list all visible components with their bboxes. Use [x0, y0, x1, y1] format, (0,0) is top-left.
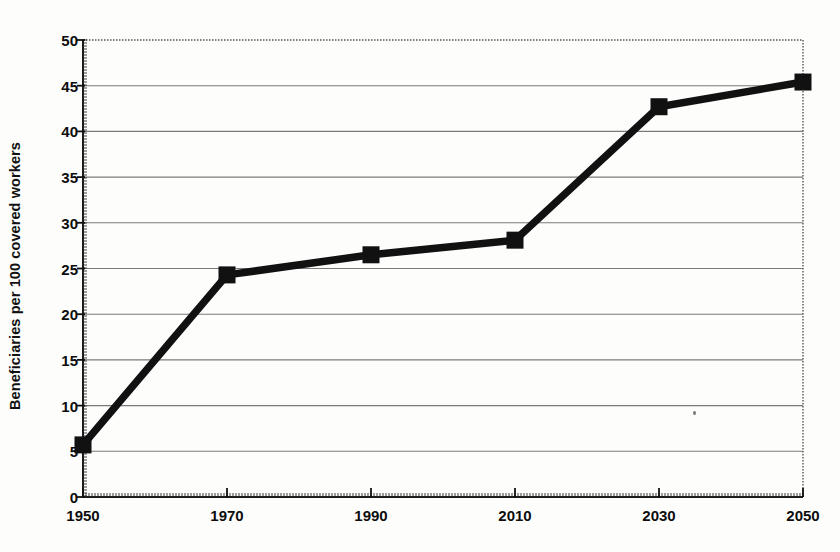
scan-artifact-speck	[693, 411, 696, 415]
data-point-markers	[75, 74, 812, 454]
plot-area	[0, 0, 840, 552]
gridlines	[83, 86, 803, 452]
x-axis-ticks	[83, 488, 803, 497]
line-chart-figure: Beneficiaries per 100 covered workers 05…	[0, 0, 840, 552]
data-series-line	[83, 82, 803, 445]
